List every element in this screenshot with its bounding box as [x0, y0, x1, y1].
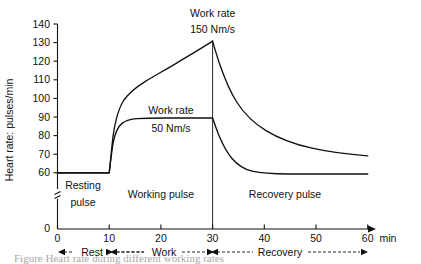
- annotation-work-rate-50: Work rate 50 Nm/s: [148, 104, 193, 134]
- x-axis-unit-label: min: [380, 232, 397, 244]
- y-tick-label-60: 60: [38, 166, 50, 178]
- x-tick-label-60: 60: [362, 232, 374, 244]
- annotation-work-rate-50-line1: Work rate: [148, 104, 193, 116]
- heart-rate-chart-svg: Heart rate: pulses/min 140 130 120 110 1…: [0, 0, 421, 264]
- annotation-recovery-pulse: Recovery pulse: [249, 188, 322, 200]
- x-tick-label-40: 40: [258, 232, 270, 244]
- y-tick-label-80: 80: [38, 129, 50, 141]
- annotation-resting-pulse-line1: Resting: [65, 179, 101, 191]
- axis-break-mark-lower: [55, 196, 61, 199]
- y-tick-label-140: 140: [32, 18, 50, 30]
- annotation-work-rate-150-line1: Work rate: [190, 7, 235, 19]
- y-tick-label-70: 70: [38, 148, 50, 160]
- y-tick-group: 140 130 120 110 100 90 80 70 60 0: [32, 18, 57, 234]
- y-tick-label-zero: 0: [44, 222, 50, 234]
- y-tick-label-100: 100: [32, 92, 50, 104]
- x-tick-label-0: 0: [55, 232, 61, 244]
- annotation-work-rate-150: Work rate 150 Nm/s: [190, 7, 235, 35]
- y-tick-label-130: 130: [32, 36, 50, 48]
- x-tick-label-20: 20: [155, 232, 167, 244]
- y-axis: [55, 24, 61, 229]
- chart-figure: Heart rate: pulses/min 140 130 120 110 1…: [0, 0, 421, 264]
- annotation-resting-pulse-line2: pulse: [70, 196, 95, 208]
- y-tick-label-90: 90: [38, 111, 50, 123]
- annotation-work-rate-150-line2: 150 Nm/s: [190, 23, 235, 35]
- y-tick-label-110: 110: [33, 73, 50, 85]
- y-tick-label-120: 120: [32, 55, 50, 67]
- x-tick-label-50: 50: [310, 232, 322, 244]
- x-tick-label-10: 10: [103, 232, 115, 244]
- y-axis-title: Heart rate: pulses/min: [3, 78, 15, 181]
- x-tick-label-30: 30: [207, 232, 219, 244]
- annotation-work-rate-50-line2: 50 Nm/s: [151, 122, 190, 134]
- figure-caption: Figure Heart rate during different worki…: [14, 253, 224, 264]
- axis-break-mark-upper: [55, 192, 61, 195]
- caption-strip: Figure Heart rate during different worki…: [0, 253, 421, 264]
- annotation-resting-pulse: Resting pulse: [65, 179, 101, 208]
- annotation-working-pulse: Working pulse: [128, 188, 194, 200]
- x-axis: 0 10 20 30 40 50 60 min: [55, 225, 397, 244]
